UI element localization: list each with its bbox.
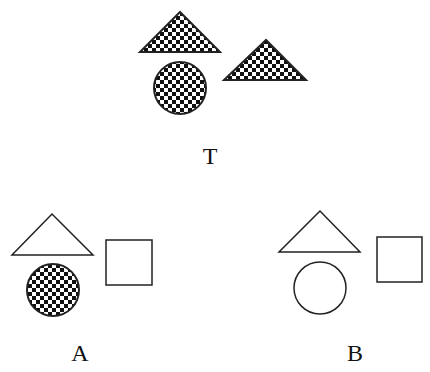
label-target: T: [203, 143, 218, 170]
option-a-square: [106, 240, 152, 285]
target-circle: [154, 62, 206, 114]
target-triangle-right: [224, 40, 306, 80]
figure-option-a[interactable]: [12, 214, 152, 316]
option-a-triangle: [12, 214, 93, 255]
figure-target: [140, 12, 306, 114]
target-triangle-top: [140, 12, 220, 52]
diagram-canvas: [0, 0, 430, 372]
option-b-triangle: [279, 211, 360, 252]
option-b-circle: [294, 262, 346, 314]
figure-option-b[interactable]: [279, 211, 422, 314]
option-b-square: [377, 237, 422, 282]
option-a-circle: [27, 264, 79, 316]
label-option-b: B: [347, 340, 363, 367]
label-option-a: A: [71, 340, 88, 367]
